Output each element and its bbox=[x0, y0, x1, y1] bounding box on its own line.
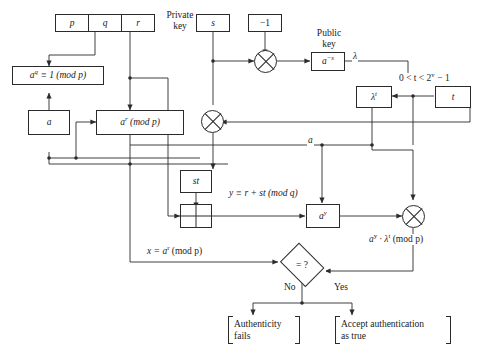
st-text: st bbox=[193, 176, 199, 187]
order-condition-text: aq ≡ 1 (mod p) bbox=[30, 70, 86, 81]
authenticity-fails-box: Authenticity fails bbox=[228, 316, 300, 344]
comparison-diamond: = ? bbox=[278, 247, 326, 283]
branch-no-label: No bbox=[283, 282, 297, 293]
t-range-post: − 1 bbox=[435, 73, 450, 83]
response-power-text: ay bbox=[319, 211, 327, 222]
x-equals-pre: x = a bbox=[147, 246, 167, 256]
public-key-box: a−s bbox=[311, 52, 345, 71]
parameter-row: p q r bbox=[55, 14, 155, 32]
challenge-t-box: t bbox=[435, 86, 471, 108]
fail-line1: Authenticity bbox=[234, 319, 294, 331]
modular-adder bbox=[180, 204, 212, 228]
connector-layer bbox=[0, 0, 489, 352]
commitment-text: ar (mod p) bbox=[120, 117, 160, 128]
private-key-value: s bbox=[211, 18, 215, 29]
verify-product-label: ay · λt (mod p) bbox=[368, 234, 424, 245]
bus-a-label: a bbox=[307, 135, 314, 146]
t-range-label: 0 < t < 2v − 1 bbox=[398, 73, 451, 84]
x-equals-label: x = ar (mod p) bbox=[146, 246, 203, 257]
generator-a-text: a bbox=[47, 117, 52, 128]
accept-authentication-box: Accept authentication as true bbox=[335, 316, 451, 344]
diagram-canvas: p q r aq ≡ 1 (mod p) a ar (mod p) Privat… bbox=[0, 0, 489, 352]
accept-line2: as true bbox=[341, 331, 445, 343]
public-key-text: a−s bbox=[322, 56, 334, 67]
fail-line2: fails bbox=[234, 331, 294, 343]
order-condition-box: aq ≡ 1 (mod p) bbox=[12, 66, 104, 85]
response-power-box: ay bbox=[306, 204, 340, 228]
verify-multiplier bbox=[402, 205, 425, 228]
public-key-label-line2: key bbox=[301, 39, 357, 50]
lambda-label: λ bbox=[352, 51, 358, 62]
private-key-box: s bbox=[196, 14, 230, 32]
public-key-label-line1: Public bbox=[301, 28, 357, 39]
param-q: q bbox=[88, 15, 121, 31]
challenge-t-value: t bbox=[452, 92, 455, 103]
branch-yes-label: Yes bbox=[333, 282, 349, 293]
minus-one-box: −1 bbox=[248, 14, 282, 32]
lambda-power-box: λt bbox=[356, 86, 392, 108]
param-p: p bbox=[56, 15, 88, 31]
st-box: st bbox=[180, 170, 212, 193]
accept-line1: Accept authentication bbox=[341, 319, 445, 331]
y-congruence-label: y ≡ r + st (mod q) bbox=[228, 188, 299, 199]
negate-multiplier bbox=[254, 50, 277, 73]
commitment-box: ar (mod p) bbox=[96, 110, 184, 135]
minus-one-value: −1 bbox=[260, 18, 270, 29]
param-r: r bbox=[121, 15, 154, 31]
st-multiplier bbox=[201, 110, 224, 133]
t-range-pre: 0 < t < 2 bbox=[399, 73, 431, 83]
public-key-label: Public key bbox=[300, 28, 358, 51]
comparison-text: = ? bbox=[278, 247, 326, 283]
generator-a-box: a bbox=[28, 110, 70, 135]
lambda-power-text: λt bbox=[371, 92, 377, 103]
